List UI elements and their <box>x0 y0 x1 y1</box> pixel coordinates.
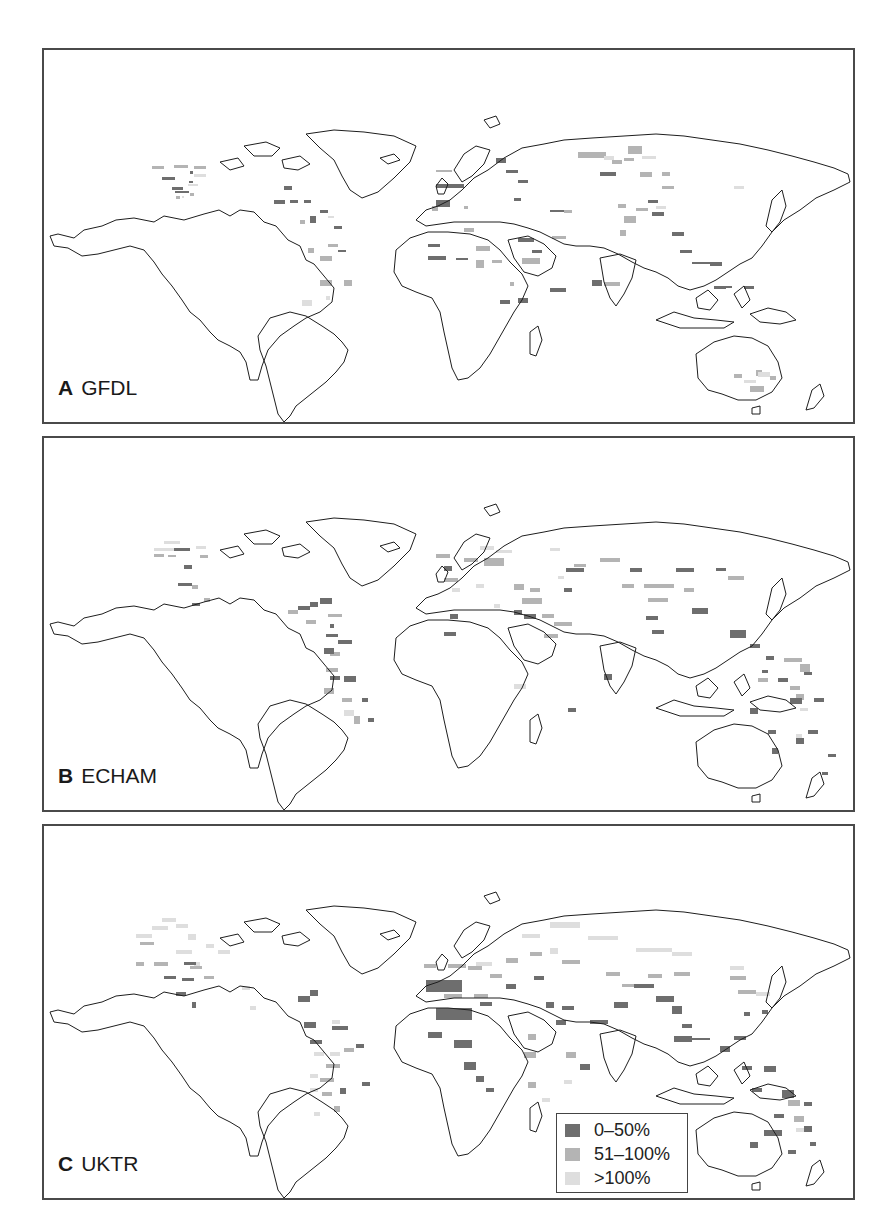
grid-cell-mid <box>628 146 642 154</box>
grid-cell-mid <box>308 248 314 253</box>
grid-cell-dark <box>428 256 446 260</box>
grid-cell-mid <box>788 1100 800 1106</box>
grid-cell-light <box>730 966 744 970</box>
grid-cell-light <box>188 934 196 940</box>
grid-cell-mid <box>140 942 154 945</box>
grid-cell-dark <box>730 630 746 638</box>
panel-model-name: ECHAM <box>81 764 157 787</box>
grid-cell-mid <box>168 555 176 557</box>
grid-cell-mid <box>300 220 305 224</box>
grid-cell-dark <box>174 548 190 551</box>
panel-label: AGFDL <box>58 376 137 400</box>
grid-cell-mid <box>468 966 482 970</box>
grid-cell-dark <box>450 614 458 619</box>
grid-cell-mid <box>574 564 586 567</box>
coastline <box>394 1008 528 1156</box>
grid-cell-dark <box>340 1088 346 1094</box>
coastline <box>656 312 734 328</box>
grid-cell-mid <box>326 1064 340 1068</box>
grid-cell-mid <box>674 972 690 976</box>
grid-cell-mid <box>490 974 502 978</box>
grid-cell-mid <box>354 716 360 724</box>
grid-cell-dark <box>320 210 328 213</box>
grid-cell-dark <box>486 1088 494 1092</box>
grid-cell-mid <box>644 584 674 588</box>
grid-cell-mid <box>600 558 620 562</box>
map-panel-c: CUKTR <box>42 824 855 1200</box>
grid-cell-mid <box>444 994 462 998</box>
grid-cell-dark <box>274 200 285 204</box>
grid-cell-dark <box>692 1038 710 1040</box>
grid-cell-dark <box>518 238 534 242</box>
grid-cell-mid <box>566 1052 576 1058</box>
grid-cell-light <box>326 296 330 300</box>
coastline <box>454 146 490 182</box>
coastline <box>696 1066 718 1086</box>
coastline <box>508 624 556 664</box>
grid-cell-light <box>152 926 168 930</box>
grid-cell-dark <box>652 630 664 634</box>
coastline <box>752 406 760 414</box>
grid-cell-mid <box>794 1116 804 1122</box>
grid-cell-dark <box>822 772 828 775</box>
grid-cell-light <box>604 156 614 160</box>
grid-cell-mid <box>662 172 670 176</box>
coastline <box>766 190 786 232</box>
grid-cell-mid <box>730 976 746 980</box>
coastline <box>258 312 348 422</box>
coastline <box>50 986 334 1156</box>
coastline <box>380 542 400 552</box>
grid-cell-mid <box>562 960 580 964</box>
grid-cell-mid <box>640 172 652 177</box>
grid-cell-mid <box>618 204 626 208</box>
grid-cell-light <box>636 948 672 952</box>
grid-cell-light <box>564 1080 572 1084</box>
grid-cell-dark <box>298 606 310 610</box>
panel-label: CUKTR <box>58 1152 138 1176</box>
grid-cell-dark <box>356 1044 364 1048</box>
coastline <box>806 1160 824 1186</box>
coastline <box>258 700 348 810</box>
grid-cell-dark <box>674 1036 692 1042</box>
grid-cell-mid <box>606 972 620 976</box>
grid-cell-mid <box>790 686 800 690</box>
grid-cell-mid <box>624 158 634 161</box>
grid-cell-dark <box>796 738 804 744</box>
grid-cell-mid <box>152 166 164 169</box>
grid-cell-dark <box>506 984 516 989</box>
grid-cell-dark <box>310 602 318 607</box>
grid-cell-mid <box>320 256 332 261</box>
coastline <box>696 336 782 400</box>
grid-cell-mid <box>492 260 502 263</box>
grid-cell-mid <box>612 160 622 164</box>
grid-cell-dark <box>744 1012 750 1016</box>
coastline <box>306 130 416 198</box>
legend-swatch-dark <box>565 1124 580 1137</box>
coastline <box>734 674 750 696</box>
grid-cell-mid <box>464 206 468 209</box>
grid-cell-mid <box>750 386 764 392</box>
grid-cell-dark <box>189 181 193 183</box>
grid-cell-dark <box>532 250 542 253</box>
grid-cell-dark <box>436 184 464 188</box>
coastline <box>394 232 528 380</box>
grid-cell-light <box>550 548 560 551</box>
grid-cell-dark <box>310 990 318 996</box>
grid-cell-mid <box>514 584 524 590</box>
grid-cell-mid <box>622 984 634 987</box>
grid-cell-dark <box>808 730 818 734</box>
grid-cell-light <box>550 922 580 928</box>
grid-cell-mid <box>476 246 490 251</box>
grid-cell-dark <box>790 698 802 704</box>
grid-cell-light <box>182 196 184 198</box>
grid-cell-dark <box>810 1142 816 1146</box>
grid-cell-dark <box>804 1102 812 1106</box>
coastline <box>416 522 850 678</box>
grid-cell-mid <box>484 558 504 566</box>
coastline <box>416 910 850 1066</box>
grid-cell-dark <box>290 200 298 203</box>
grid-cell-mid <box>784 658 802 662</box>
grid-cell-light <box>194 174 206 177</box>
grid-cell-dark <box>330 676 340 680</box>
grid-cell-dark <box>762 1010 768 1014</box>
